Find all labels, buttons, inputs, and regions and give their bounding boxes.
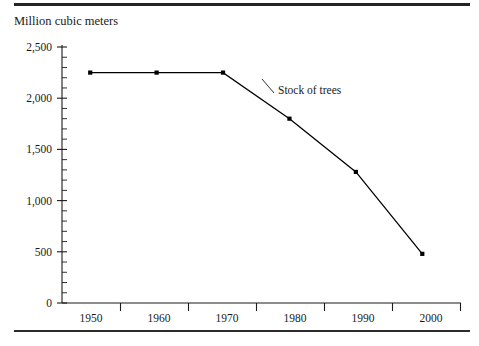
chart-figure: Million cubic meters <box>0 0 479 346</box>
series-annotation-stock-of-trees: Stock of trees <box>278 84 342 96</box>
x-tick-label-1990: 1990 <box>352 312 375 324</box>
y-tick-label-1000: 1,000 <box>26 195 52 208</box>
bottom-divider-rule <box>14 330 470 332</box>
data-point-1970 <box>221 71 225 75</box>
x-tick-label-1950: 1950 <box>80 312 103 324</box>
y-tick-label-1500: 1,500 <box>26 143 52 156</box>
x-tick-label-1960: 1960 <box>148 312 171 324</box>
x-tick-label-1980: 1980 <box>284 312 307 324</box>
data-point-1950 <box>88 71 92 75</box>
y-tick-label-500: 500 <box>35 246 53 258</box>
series-line-stock-of-trees <box>90 73 422 254</box>
data-point-1980 <box>287 117 291 121</box>
y-tick-label-2000: 2,000 <box>26 92 52 105</box>
data-point-2000 <box>420 252 424 256</box>
y-tick-label-2500: 2,500 <box>26 41 52 54</box>
x-tick-label-2000: 2000 <box>420 312 443 324</box>
data-point-1990 <box>354 170 358 174</box>
data-point-1960 <box>155 71 159 75</box>
x-axis-ticks <box>121 303 461 311</box>
x-tick-label-1970: 1970 <box>216 312 239 324</box>
line-chart-plot: 0 500 1,000 1,500 2,000 2,500 1950 1960 … <box>0 0 479 346</box>
y-tick-label-0: 0 <box>46 297 52 309</box>
series-markers-stock-of-trees <box>88 71 424 256</box>
annotation-leader-line <box>262 79 274 93</box>
y-axis-minor-ticks <box>62 57 67 293</box>
